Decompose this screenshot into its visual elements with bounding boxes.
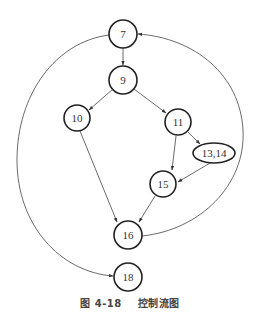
- control-flow-graph: 7 9 10 11 13,14 15 16 18: [0, 0, 260, 315]
- edge-15-16: [139, 196, 155, 222]
- figure-title: 控制流图: [138, 298, 180, 309]
- node-9-label: 9: [120, 74, 126, 86]
- node-16-label: 16: [123, 229, 135, 241]
- edge-11-15: [172, 136, 176, 170]
- node-11: 11: [165, 109, 191, 135]
- edge-13-14-15: [178, 163, 210, 182]
- edge-11-13-14: [188, 132, 200, 144]
- node-13-14-label: 13,14: [202, 147, 227, 159]
- node-9: 9: [109, 66, 137, 94]
- edge-9-10: [89, 89, 113, 110]
- edge-10-16: [80, 131, 117, 222]
- node-16: 16: [114, 221, 142, 249]
- edge-9-11: [134, 89, 166, 113]
- node-13-14: 13,14: [193, 143, 235, 163]
- figure-caption: 图 4-18 控制流图: [0, 295, 260, 310]
- node-18-label: 18: [123, 271, 135, 283]
- node-15: 15: [150, 171, 176, 197]
- node-15-label: 15: [158, 178, 170, 190]
- node-7-label: 7: [120, 28, 126, 40]
- node-10-label: 10: [72, 112, 84, 124]
- node-7: 7: [109, 20, 137, 48]
- edge-7-18-exit: [17, 35, 113, 276]
- node-18: 18: [114, 263, 142, 291]
- node-11-label: 11: [173, 116, 184, 128]
- figure-number: 图 4-18: [80, 298, 122, 309]
- node-10: 10: [64, 105, 90, 131]
